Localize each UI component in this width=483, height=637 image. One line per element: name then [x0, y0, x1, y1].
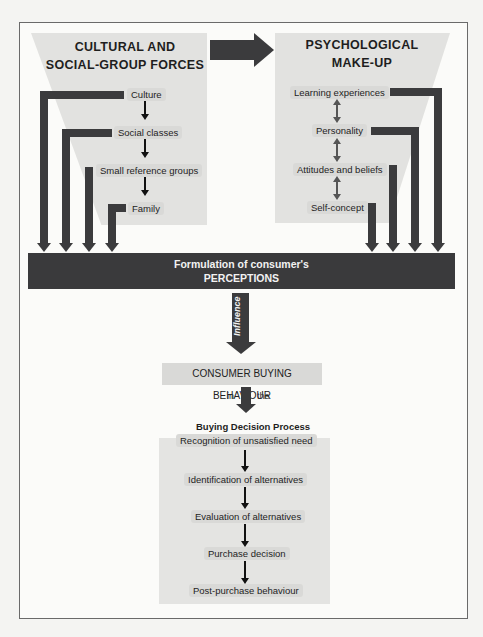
- process-step-5: Post-purchase behaviour: [189, 584, 303, 597]
- process-step-4: Purchase decision: [204, 547, 290, 560]
- left-item-small-reference-groups: Small reference groups: [96, 164, 202, 177]
- attitudes-feedback-vertical: [389, 165, 397, 243]
- social-feedback-vertical: [62, 129, 70, 243]
- left-heading-line1: CULTURAL AND: [40, 38, 210, 56]
- learning-personality-line: [336, 104, 338, 117]
- perceptions-line1: Formulation of consumer's: [28, 257, 455, 271]
- right-item-attitudes-and-beliefs: Attitudes and beliefs: [293, 163, 387, 176]
- culture-to-social-line: [144, 101, 146, 115]
- arrow-down-icon: [408, 243, 422, 252]
- step4-to-step5-line: [244, 561, 246, 579]
- arrow-down-icon: [386, 243, 400, 252]
- double-arrow-icon: [333, 156, 341, 162]
- personality-feedback-vertical: [411, 127, 419, 243]
- personality-attitudes-line: [336, 143, 338, 156]
- right-item-personality: Personality: [312, 124, 367, 137]
- process-title: Buying Decision Process: [196, 421, 310, 432]
- consumer-buying-behaviour-box: CONSUMER BUYING BEHAVIOUR: [162, 363, 322, 385]
- selfconcept-feedback-vertical: [368, 203, 376, 243]
- right-heading-line2: MAKE-UP: [282, 54, 442, 72]
- double-arrow-icon: [333, 117, 341, 123]
- arrow-down-icon: [226, 342, 256, 354]
- connector-the: the: [257, 391, 270, 401]
- learning-feedback-vertical: [434, 88, 442, 243]
- connector-in: in: [227, 391, 234, 401]
- culture-feedback-horizontal: [40, 91, 124, 99]
- arrow-down-icon: [431, 243, 445, 252]
- attitudes-selfconcept-line: [336, 181, 338, 194]
- family-feedback-vertical: [108, 204, 116, 243]
- right-heading-line1: PSYCHOLOGICAL: [282, 36, 442, 54]
- process-step-2: Identification of alternatives: [184, 473, 307, 486]
- arrow-down-icon: [236, 404, 256, 413]
- arrow-down-icon: [241, 466, 249, 472]
- step2-to-step3-line: [244, 487, 246, 504]
- arrow-down-icon: [141, 114, 149, 120]
- influence-label: Influence: [232, 290, 248, 342]
- left-item-family: Family: [128, 202, 164, 215]
- reference-to-family-line: [144, 177, 146, 191]
- arrow-down-icon: [141, 152, 149, 158]
- arrow-down-icon: [82, 243, 96, 252]
- process-step-3: Evaluation of alternatives: [191, 510, 305, 523]
- left-item-culture: Culture: [127, 88, 166, 101]
- left-item-social-classes: Social classes: [114, 126, 182, 139]
- process-step-1: Recognition of unsatisfied need: [176, 434, 317, 447]
- connector-arrow-shaft: [241, 387, 251, 405]
- step3-to-step4-line: [244, 524, 246, 542]
- arrow-down-icon: [365, 243, 379, 252]
- arrow-down-icon: [241, 503, 249, 509]
- arrow-down-icon: [105, 243, 119, 252]
- culture-feedback-vertical: [40, 91, 48, 243]
- top-arrow-shaft: [210, 40, 255, 60]
- social-to-reference-line: [144, 139, 146, 153]
- double-arrow-icon: [333, 194, 341, 200]
- left-group-heading: CULTURAL AND SOCIAL-GROUP FORCES: [40, 38, 210, 74]
- reference-feedback-vertical: [85, 167, 93, 243]
- arrow-down-icon: [59, 243, 73, 252]
- left-heading-line2: SOCIAL-GROUP FORCES: [40, 56, 210, 74]
- right-group-heading: PSYCHOLOGICAL MAKE-UP: [282, 36, 442, 72]
- step1-to-step2-line: [244, 450, 246, 467]
- right-item-learning-experiences: Learning experiences: [290, 86, 389, 99]
- right-item-self-concept: Self-concept: [307, 201, 368, 214]
- arrow-down-icon: [37, 243, 51, 252]
- arrow-down-icon: [141, 190, 149, 196]
- right-arrow-icon: [254, 33, 274, 67]
- perceptions-bar: Formulation of consumer's PERCEPTIONS: [28, 253, 455, 289]
- perceptions-line2: PERCEPTIONS: [28, 271, 455, 285]
